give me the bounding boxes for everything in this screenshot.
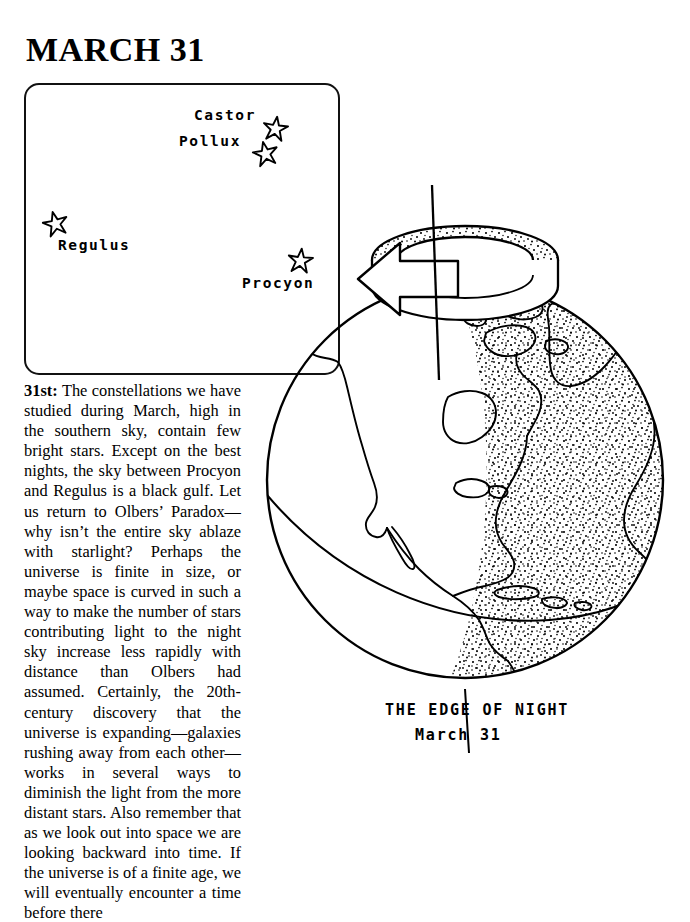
star-label-castor: Castor (194, 107, 256, 123)
star-label-regulus: Regulus (58, 237, 130, 253)
article-paragraph: The constellations we have studied durin… (24, 381, 241, 922)
article-body: 31st: The constellations we have studied… (24, 381, 241, 922)
globe-canvas (250, 165, 690, 765)
globe-figure: THE EDGE OF NIGHT March 31 (250, 165, 690, 765)
star-castor (262, 115, 289, 141)
star-label-pollux: Pollux (179, 133, 241, 149)
article-lead-in: 31st: (24, 381, 58, 400)
rotation-arrow-icon (358, 226, 558, 320)
page-title: MARCH 31 (26, 30, 205, 70)
globe-caption-date: March 31 (415, 726, 502, 744)
star-regulus (41, 209, 70, 237)
globe-caption-title: THE EDGE OF NIGHT (385, 701, 569, 719)
star-pollux (251, 139, 280, 167)
